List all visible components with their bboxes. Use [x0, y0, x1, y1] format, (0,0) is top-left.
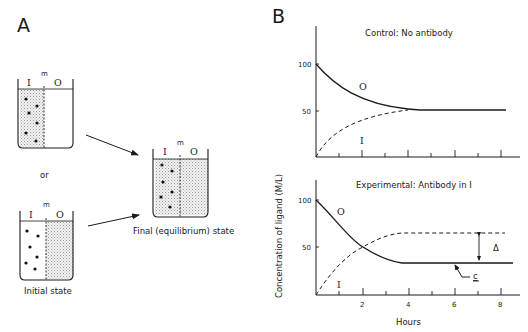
or-text: or: [40, 170, 49, 180]
outside-compartment-stippled: [46, 221, 73, 279]
y-axis-label: Concentration of ligand (M/L): [274, 174, 284, 298]
x-tick-label-4: 4: [406, 301, 411, 309]
membrane-label: m: [43, 201, 50, 209]
panel-b-label: B: [272, 5, 285, 27]
membrane-label: m: [177, 139, 184, 147]
equilibrium-stippled: [155, 159, 208, 215]
figure: A I O m or I O m: [0, 0, 528, 332]
chart-experimental: Experimental: Antibody in I 100 50 2 4 6…: [298, 180, 520, 327]
arrow-bottom-to-final: [88, 215, 139, 226]
inside-label: I: [163, 146, 167, 157]
outside-label: O: [54, 77, 62, 88]
ligand-particles: [24, 229, 39, 270]
panel-b: B Concentration of ligand (M/L) Control:…: [272, 5, 520, 327]
panel-a: A I O m or I O m: [17, 14, 234, 296]
y-tick-label-100: 100: [298, 197, 311, 205]
chart-control: Control: No antibody 100 50 O I: [298, 26, 520, 157]
c-arrow: [455, 265, 470, 277]
curve-outside-o: [316, 64, 506, 110]
curve-outside-o: [316, 200, 513, 263]
y-tick-label-100: 100: [298, 61, 311, 69]
y-tick-label-50: 50: [302, 244, 311, 252]
chart-experimental-title: Experimental: Antibody in I: [356, 180, 472, 190]
x-ticks: [339, 150, 501, 157]
panel-a-label: A: [17, 14, 30, 36]
initial-state-caption: Initial state: [24, 286, 72, 296]
curve-label-o: O: [337, 206, 345, 217]
outside-label: O: [190, 146, 198, 157]
arrow-top-to-final: [86, 135, 138, 155]
delta-label: Δ: [493, 243, 499, 253]
outside-label: O: [56, 209, 64, 220]
inside-label: I: [27, 77, 31, 88]
beaker-final: I O m Final (equilibrium) state: [133, 139, 234, 236]
beaker-top-left: I O m: [18, 70, 73, 148]
c-label: c: [473, 271, 478, 281]
curve-label-o: O: [359, 81, 367, 92]
chart-control-title: Control: No antibody: [365, 28, 453, 38]
x-tick-label-8: 8: [498, 301, 502, 309]
y-tick-label-50: 50: [302, 108, 311, 116]
beaker-bottom-left: I O m Initial state: [20, 201, 73, 296]
curve-inside-i: [316, 233, 505, 295]
curve-label-i: I: [360, 135, 364, 146]
x-ticks: [339, 288, 501, 295]
x-tick-label-6: 6: [452, 301, 457, 309]
final-state-caption: Final (equilibrium) state: [133, 226, 234, 236]
membrane-label: m: [41, 70, 48, 78]
inside-compartment-stippled: [20, 89, 44, 147]
curve-label-i: I: [337, 279, 341, 290]
curve-inside-i: [316, 110, 408, 157]
x-tick-label-2: 2: [360, 301, 364, 309]
x-axis-label: Hours: [396, 317, 421, 327]
inside-label: I: [29, 209, 33, 220]
